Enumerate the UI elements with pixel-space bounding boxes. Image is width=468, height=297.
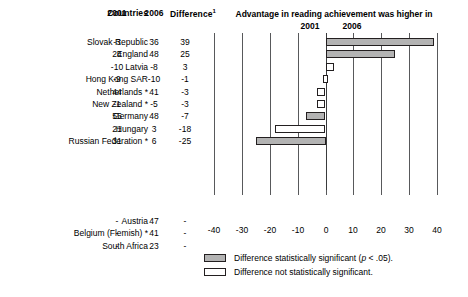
chart-bar [326, 50, 396, 58]
chart-bar [306, 112, 326, 120]
axis-tick [326, 190, 327, 195]
gridline [298, 33, 299, 190]
axis-tick [298, 190, 299, 195]
chart-bar [326, 38, 435, 46]
axis-tick-label: 10 [338, 225, 368, 235]
axis-tick-label: 40 [422, 225, 452, 235]
axis-tick [270, 190, 271, 195]
chart-side-label-2006: 2006 [328, 21, 376, 31]
axis-tick [353, 190, 354, 195]
chart-bar [317, 100, 325, 108]
axis-tick-label: -30 [227, 225, 257, 235]
chart-title: Advantage in reading achievement was hig… [200, 9, 468, 19]
axis-tick-label: 20 [366, 225, 396, 235]
legend-label: Difference not statistically significant… [234, 267, 373, 277]
legend-label: Difference statistically significant (p … [234, 253, 393, 263]
chart-bar [275, 125, 325, 133]
axis-tick [409, 190, 410, 195]
axis-tick [214, 190, 215, 195]
gridline [214, 33, 215, 190]
gridline [270, 33, 271, 190]
axis-tick-label: 30 [394, 225, 424, 235]
axis-tick-label: -10 [283, 225, 313, 235]
chart-bar [317, 88, 325, 96]
axis-tick [381, 190, 382, 195]
legend-swatch [204, 268, 226, 276]
chart-side-label-2001: 2001 [286, 21, 334, 31]
axis-tick-label: 0 [311, 225, 341, 235]
gridline [242, 33, 243, 190]
gridline [409, 33, 410, 190]
chart-bar [323, 75, 328, 83]
axis-tick-label: -40 [199, 225, 229, 235]
chart-bar [326, 63, 334, 71]
legend-swatch [204, 254, 226, 262]
chart-bar [256, 137, 326, 145]
axis-tick-label: -20 [255, 225, 285, 235]
plot-area: -40-30-20-10010203040 [214, 33, 437, 190]
axis-tick [242, 190, 243, 195]
gridline [437, 33, 438, 190]
axis-tick [437, 190, 438, 195]
chart-page: Countries 2001 2006 Difference1 Slovak R… [0, 0, 468, 297]
